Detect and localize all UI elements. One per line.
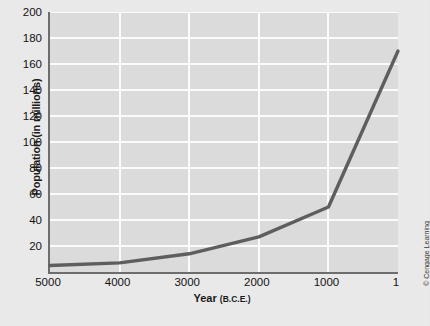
y-axis-tick-label: 180	[23, 32, 42, 44]
x-axis-tick-label: 3000	[174, 276, 200, 288]
x-axis-tick-label: 4000	[105, 276, 131, 288]
y-axis-tick-label: 160	[23, 58, 42, 70]
y-axis-tick-label: 80	[29, 162, 42, 174]
y-axis-tick-label: 20	[29, 240, 42, 252]
y-axis-tick-label: 200	[23, 6, 42, 18]
x-axis-tick-label: 1	[393, 276, 399, 288]
x-axis-tick-label: 5000	[35, 276, 61, 288]
y-axis-tick-label: 120	[23, 110, 42, 122]
x-axis-title-text: Year	[193, 292, 216, 304]
y-axis-tick-label: 140	[23, 84, 42, 96]
data-series-line	[50, 12, 398, 272]
y-axis-tick-label: 60	[29, 188, 42, 200]
y-axis-tick-label: 40	[29, 214, 42, 226]
x-axis-title-unit: (B.C.E.)	[220, 294, 251, 304]
copyright-credit: © Cengage Learning	[423, 199, 430, 309]
plot-area	[48, 12, 398, 274]
y-axis-tick-label: 100	[23, 136, 42, 148]
x-axis-title: Year (B.C.E.)	[48, 292, 396, 304]
x-axis-tick-label: 2000	[244, 276, 270, 288]
x-axis-tick-label: 1000	[314, 276, 340, 288]
